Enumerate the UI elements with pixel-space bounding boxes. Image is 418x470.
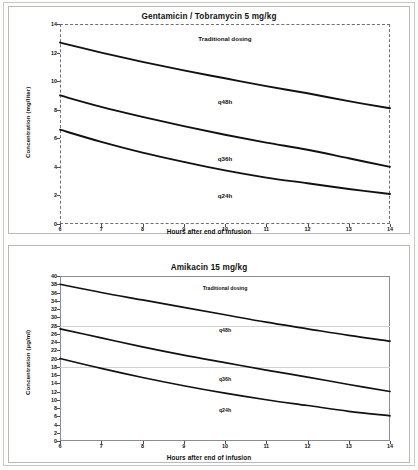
y-tick-mark [57,359,60,360]
x-tick-mark [308,224,309,227]
y-axis-label-top: Concentration (mg/liter) [24,87,31,158]
y-tick-mark [57,425,60,426]
curve-annotation: Traditional dosing [198,35,251,42]
x-tick-mark [60,441,61,444]
x-tick-mark [184,441,185,444]
y-tick-mark [57,284,60,285]
curves-bottom [60,276,390,441]
y-tick-mark [57,433,60,434]
y-tick-mark [57,293,60,294]
y-tick-mark [57,367,60,368]
x-tick-mark [390,441,391,444]
y-tick-mark [57,400,60,401]
x-tick-mark [60,224,61,227]
y-tick-mark [57,167,60,168]
y-tick-mark [57,317,60,318]
plot-area-bottom: 0246810121416182022242628303234363840678… [60,276,390,441]
curve-annotation: q48h [218,98,232,105]
x-tick-mark [308,441,309,444]
x-tick-mark [349,441,350,444]
x-tick-mark [225,441,226,444]
chart-panel-amikacin: Amikacin 15 mg/kg Concentration (µg/ml) … [8,245,410,463]
y-tick-mark [57,138,60,139]
chart-panel-gentamicin: Gentamicin / Tobramycin 5 mg/kg Concentr… [8,6,410,234]
x-tick-mark [266,224,267,227]
plot-area-top: 0246810121467891011121314 Traditional do… [60,24,390,224]
curve-q48h [60,284,390,341]
y-tick-mark [57,81,60,82]
y-tick-mark [57,301,60,302]
y-tick-mark [57,342,60,343]
curve-annotation: q36h [218,155,232,162]
x-axis-label-bottom: Hours after end of infusion [8,454,410,461]
curve-annotation: q24h [219,407,231,413]
y-tick-mark [57,110,60,111]
y-axis-label-bottom: Concentration (µg/ml) [24,330,31,395]
x-tick-mark [101,224,102,227]
x-tick-mark [143,441,144,444]
y-tick-mark [57,53,60,54]
y-tick-mark [57,383,60,384]
chart-title-top: Gentamicin / Tobramycin 5 mg/kg [8,12,410,21]
y-tick-mark [57,416,60,417]
x-tick-mark [349,224,350,227]
x-tick-mark [101,441,102,444]
y-tick-mark [57,276,60,277]
x-tick-mark [266,441,267,444]
x-tick-mark [225,224,226,227]
y-tick-mark [57,350,60,351]
y-tick-mark [57,24,60,25]
curve-annotation: Traditional dosing [203,285,248,291]
curve-annotation: q48h [219,327,231,333]
y-tick-mark [57,326,60,327]
y-tick-mark [57,375,60,376]
y-tick-mark [57,334,60,335]
chart-title-bottom: Amikacin 15 mg/kg [8,263,410,272]
x-tick-mark [143,224,144,227]
x-tick-mark [184,224,185,227]
y-tick-mark [57,408,60,409]
curve-annotation: q36h [219,376,231,382]
curve-annotation: q24h [218,192,232,199]
curve-q24h [60,130,390,194]
y-tick-mark [57,309,60,310]
y-tick-mark [57,195,60,196]
scanned-figure-page: Gentamicin / Tobramycin 5 mg/kg Concentr… [0,0,418,470]
y-tick-mark [57,392,60,393]
x-tick-mark [390,224,391,227]
